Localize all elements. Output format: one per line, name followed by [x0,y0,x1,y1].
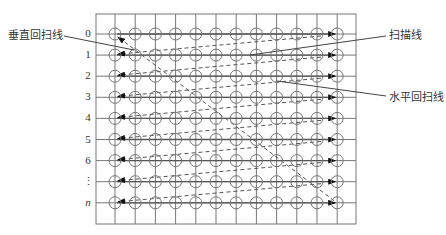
row-label: ⋮ [81,175,95,187]
horizontal-retrace-label: 水平回扫线 [389,92,444,104]
row-label: n [81,196,95,208]
row-label: 1 [81,48,95,60]
row-label: 4 [81,111,95,123]
row-label: 5 [81,133,95,145]
vertical-retrace-label: 垂直回扫线 [8,30,63,42]
row-label: 3 [81,90,95,102]
row-label: 0 [81,27,95,39]
raster-scan-diagram [0,0,446,235]
row-label: 6 [81,154,95,166]
row-label: 2 [81,69,95,81]
scan-line-label: 扫描线 [389,30,422,42]
